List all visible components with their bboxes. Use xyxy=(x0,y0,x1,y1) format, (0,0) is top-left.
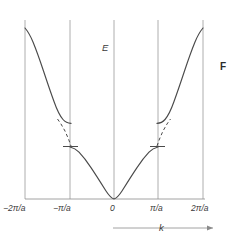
figure-corner-label: F xyxy=(220,61,226,72)
xtick-label-minus-2pi-a: −2π/a xyxy=(3,203,25,213)
second-band-left-curve xyxy=(25,28,71,123)
second-band-right-curve xyxy=(157,28,203,123)
k-axis-label: k xyxy=(159,222,164,233)
xtick-label-zero: 0 xyxy=(110,203,115,213)
band-structure-figure: −2π/a −π/a 0 π/a 2π/a E k F xyxy=(0,0,229,241)
xtick-label-2pi-a: 2π/a xyxy=(191,203,209,213)
k-arrow-head xyxy=(207,226,213,231)
xtick-label-pi-a: π/a xyxy=(150,203,163,213)
zone-boundary-lines xyxy=(25,20,203,199)
xtick-label-minus-pi-a: −π/a xyxy=(53,203,71,213)
energy-axis-label: E xyxy=(102,42,108,53)
